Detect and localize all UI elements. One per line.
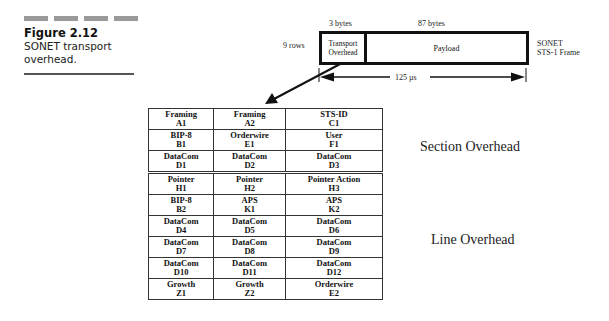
frame-duration-label: 125 µs — [395, 73, 417, 82]
table-row: BIP-8B2 APSK1 APSK2 — [149, 195, 383, 216]
overhead-cell: APSK2 — [285, 195, 382, 216]
section-overhead-label: Section Overhead — [420, 139, 520, 155]
overhead-cell: DataComD2 — [214, 151, 286, 173]
overhead-cell: FramingA1 — [149, 109, 214, 130]
overhead-cell: APSK1 — [214, 195, 286, 216]
overhead-cell: DataComD1 — [149, 151, 214, 173]
overhead-cell: DataComD11 — [214, 258, 286, 279]
overhead-cell: DataComD6 — [285, 216, 382, 237]
overhead-pointer-arrow — [265, 63, 342, 104]
overhead-cell: GrowthZ2 — [214, 279, 286, 300]
overhead-cell: GrowthZ1 — [149, 279, 214, 300]
table-row: FramingA1 FramingA2 STS-IDC1 — [149, 109, 383, 130]
overhead-cell: FramingA2 — [214, 109, 286, 130]
overhead-cell: DataComD8 — [214, 237, 286, 258]
table-row: GrowthZ1 GrowthZ2 OrderwireE2 — [149, 279, 383, 300]
line-overhead-label: Line Overhead — [431, 232, 515, 248]
overhead-cell: DataComD10 — [149, 258, 214, 279]
overhead-cell: UserF1 — [285, 130, 382, 151]
table-row: PointerH1 PointerH2 Pointer ActionH3 — [149, 173, 383, 195]
overhead-cell: DataComD7 — [149, 237, 214, 258]
table-row: DataComD10 DataComD11 DataComD12 — [149, 258, 383, 279]
transport-overhead-table: FramingA1 FramingA2 STS-IDC1 BIP-8B1 Ord… — [148, 108, 383, 300]
overhead-cell: DataComD9 — [285, 237, 382, 258]
table-row: DataComD1 DataComD2 DataComD3 — [149, 151, 383, 173]
overhead-cell: BIP-8B1 — [149, 130, 214, 151]
overhead-cell: PointerH1 — [149, 173, 214, 195]
overhead-cell: STS-IDC1 — [285, 109, 382, 130]
duration-arrow — [319, 68, 526, 82]
overhead-cell: OrderwireE2 — [285, 279, 382, 300]
overhead-cell: Pointer ActionH3 — [285, 173, 382, 195]
table-row: BIP-8B1 OrderwireE1 UserF1 — [149, 130, 383, 151]
table-row: DataComD7 DataComD8 DataComD9 — [149, 237, 383, 258]
overhead-cell: BIP-8B2 — [149, 195, 214, 216]
overhead-cell: OrderwireE1 — [214, 130, 286, 151]
overhead-cell: DataComD4 — [149, 216, 214, 237]
table-row: DataComD4 DataComD5 DataComD6 — [149, 216, 383, 237]
overhead-cell: DataComD12 — [285, 258, 382, 279]
overhead-cell: DataComD5 — [214, 216, 286, 237]
overhead-cell: DataComD3 — [285, 151, 382, 173]
overhead-cell: PointerH2 — [214, 173, 286, 195]
